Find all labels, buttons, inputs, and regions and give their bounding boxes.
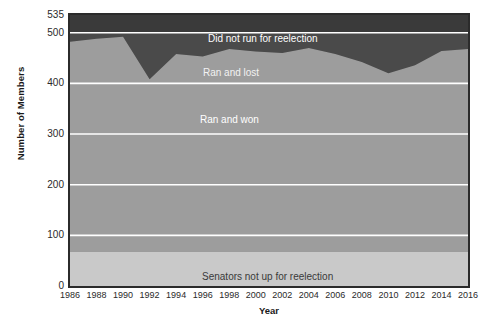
- y-tick-200: 200: [4, 180, 64, 190]
- stacked-area-svg: [70, 15, 468, 286]
- plot-area: Did not run for reelection Ran and lost …: [68, 13, 470, 288]
- band-did-not-run: [70, 15, 468, 33]
- band-ran-and-won: [70, 37, 468, 252]
- y-axis-title: Number of Members: [15, 44, 26, 184]
- y-tick-500: 500: [4, 28, 64, 38]
- area-bands: [70, 15, 468, 286]
- y-tick-100: 100: [4, 230, 64, 240]
- x-tick-2016: 2016: [448, 290, 488, 300]
- y-tick-300: 300: [4, 129, 64, 139]
- x-axis-title: Year: [68, 305, 470, 316]
- y-tick-400: 400: [4, 78, 64, 88]
- y-tick-535: 535: [4, 10, 64, 20]
- band-senators-not-up: [70, 252, 468, 286]
- chart-figure: Number of Members Year 01002003004005005…: [0, 0, 498, 330]
